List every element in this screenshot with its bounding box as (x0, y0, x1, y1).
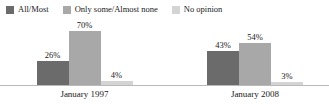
legend-item-no-opinion: No opinion (172, 5, 223, 14)
bar-group-january-1997: 26% 70% 4% (22, 18, 147, 85)
bar-rect (69, 31, 101, 85)
bar-no-opinion: 4% (101, 18, 133, 85)
bar-only-some-almost-none: 70% (69, 18, 101, 85)
bar-rect (271, 82, 303, 85)
legend-item-label: No opinion (184, 5, 223, 14)
bar-all-most: 26% (37, 18, 69, 85)
bar-value-label: 26% (45, 50, 61, 60)
legend-item-all-most: All/Most (6, 5, 49, 14)
bar-no-opinion: 3% (271, 18, 303, 85)
category-label-january-2008: January 2008 (196, 89, 314, 100)
plot-area: 26% 70% 4% 43% 54% 3% (0, 18, 329, 86)
bar-value-label: 54% (247, 32, 263, 42)
bar-chart: All/Most Only some/Almost none No opinio… (0, 0, 329, 105)
bar-rect (207, 51, 239, 85)
bar-value-label: 43% (215, 40, 231, 50)
bar-all-most: 43% (207, 18, 239, 85)
bar-rect (37, 61, 69, 85)
legend-item-only-some-almost-none: Only some/Almost none (63, 5, 158, 14)
category-label-january-1997: January 1997 (22, 89, 147, 100)
bar-value-label: 70% (77, 20, 93, 30)
bar-rect (239, 43, 271, 85)
bar-rect (101, 81, 133, 85)
chart-legend: All/Most Only some/Almost none No opinio… (6, 3, 324, 16)
bar-value-label: 4% (111, 70, 122, 80)
bar-value-label: 3% (281, 71, 292, 81)
legend-swatch-icon (6, 6, 14, 14)
legend-swatch-icon (172, 6, 180, 14)
bar-only-some-almost-none: 54% (239, 18, 271, 85)
bar-group-january-2008: 43% 54% 3% (196, 18, 314, 85)
legend-swatch-icon (63, 6, 71, 14)
legend-item-label: All/Most (18, 5, 49, 14)
legend-item-label: Only some/Almost none (75, 5, 158, 14)
x-axis-baseline (0, 85, 329, 86)
